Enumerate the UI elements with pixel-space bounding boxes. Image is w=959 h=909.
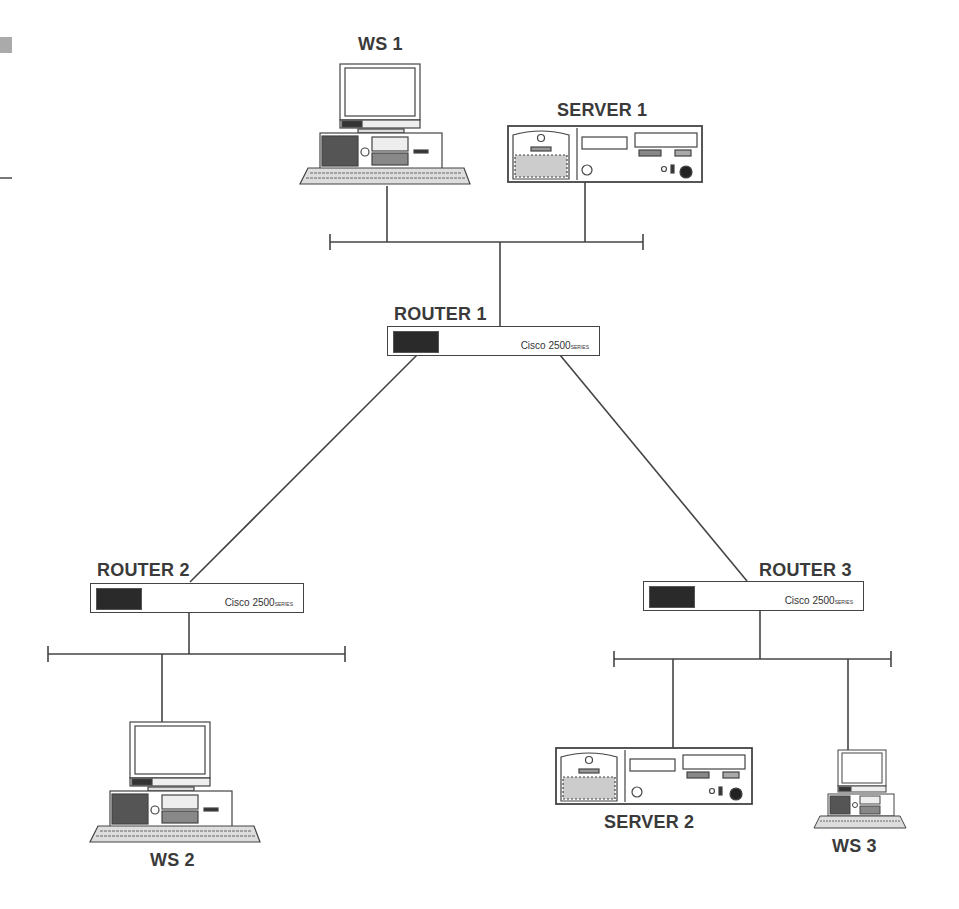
cisco-logo-icon <box>96 588 142 610</box>
router2-label: ROUTER 2 <box>97 560 190 581</box>
router2-model: Cisco 2500SERIES <box>225 597 293 608</box>
ws2-label: WS 2 <box>150 850 195 871</box>
server2-label: SERVER 2 <box>604 812 694 833</box>
router3-model: Cisco 2500SERIES <box>785 595 853 606</box>
router1-model: Cisco 2500SERIES <box>521 340 589 351</box>
router2-device: Cisco 2500SERIES <box>90 583 304 613</box>
workstation-icon <box>298 60 474 186</box>
cisco-logo-icon <box>393 331 439 353</box>
workstation-icon <box>812 748 908 834</box>
router3-device: Cisco 2500SERIES <box>643 581 864 611</box>
router3-label: ROUTER 3 <box>759 560 852 581</box>
network-diagram: WS 1 SERVER 1 <box>0 0 959 909</box>
cisco-logo-icon <box>649 586 695 608</box>
ws1-label: WS 1 <box>358 34 403 55</box>
ws3-label: WS 3 <box>832 836 877 857</box>
workstation-icon <box>88 720 264 846</box>
server-icon <box>555 747 753 805</box>
router1-label: ROUTER 1 <box>394 304 487 325</box>
server-icon <box>507 125 703 183</box>
server1-label: SERVER 1 <box>557 100 647 121</box>
router1-device: Cisco 2500SERIES <box>387 326 600 356</box>
